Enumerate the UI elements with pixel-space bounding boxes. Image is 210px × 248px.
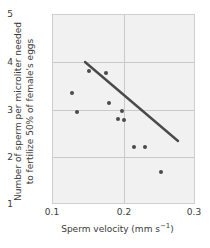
y-axis-label-line-1: Number of sperm per microliter needed [13,12,25,212]
x-tick-label-0.3: 0.3 [174,207,210,217]
x-axis-label-text: Sperm velocity (mm s [61,224,160,234]
x-axis-label: Sperm velocity (mm s−1) [30,224,205,234]
x-axis-label-tail: ) [170,224,174,234]
x-axis-label-exponent: −1 [160,222,170,230]
x-tick-label-0.1: 0.1 [32,207,72,217]
y-tick-label-5: 5 [0,10,13,19]
y-tick-label-1: 1 [0,200,13,209]
scatter-chart-figure: 5 4 3 2 1 0.1 0.2 0.3 Sperm velocity (mm… [0,0,210,248]
y-tick-label-3: 3 [0,106,13,115]
y-axis-label: Number of sperm per microliter needed to… [13,12,36,212]
x-tick-label-0.2: 0.2 [104,207,144,217]
y-tick-label-4: 4 [0,58,13,67]
y-axis-label-line-2: to fertilize 50% of female's eggs [24,12,36,212]
y-tick-label-2: 2 [0,153,13,162]
